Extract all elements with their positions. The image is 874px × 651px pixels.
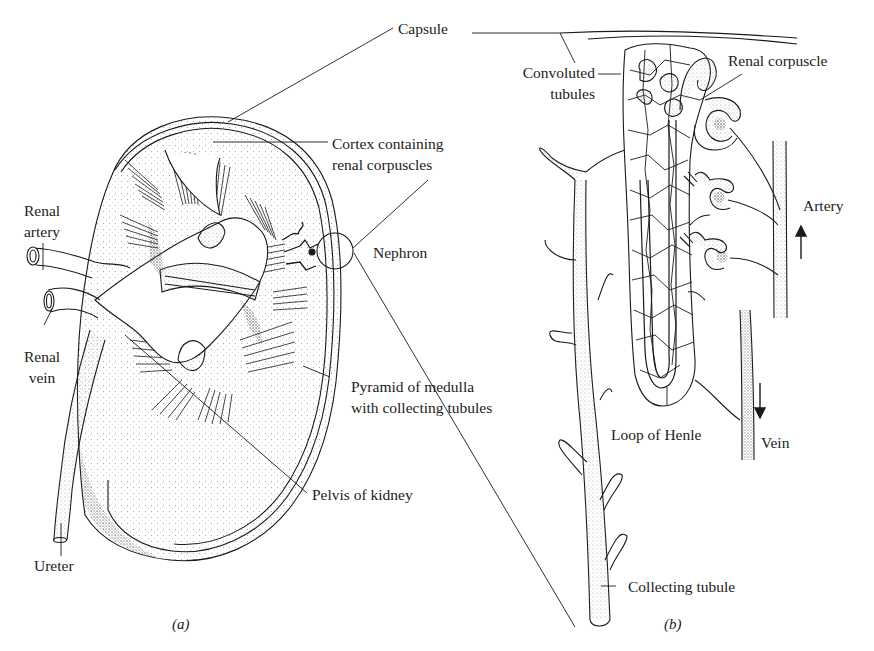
label-ureter: Ureter xyxy=(34,555,74,576)
label-pelvis-of-kidney: Pelvis of kidney xyxy=(312,484,413,505)
panel-label-a: (a) xyxy=(172,616,190,633)
label-renal-artery-line1: Renal xyxy=(14,200,70,221)
kidney-cross-section xyxy=(27,117,341,561)
label-nephron: Nephron xyxy=(373,242,427,263)
label-convoluted-line2: tubules xyxy=(494,83,595,104)
label-renal-artery-line2: artery xyxy=(14,221,70,242)
label-loop-of-henle: Loop of Henle xyxy=(611,424,701,445)
label-renal-corpuscle: Renal corpuscle xyxy=(728,50,827,71)
label-collecting-tubule: Collecting tubule xyxy=(628,576,735,597)
nephron-detail xyxy=(540,31,797,626)
diagram-drawing xyxy=(0,0,874,651)
label-renal-vein-line1: Renal xyxy=(14,346,70,367)
label-renal-vein-line2: vein xyxy=(14,367,70,388)
arrow-up-icon xyxy=(796,226,806,236)
label-vein: Vein xyxy=(761,432,789,453)
kidney-nephron-figure: Capsule Cortex containing renal corpuscl… xyxy=(0,0,874,651)
label-convoluted-line1: Convoluted xyxy=(494,62,595,83)
label-pyramid-line1: Pyramid of medulla xyxy=(351,376,474,397)
label-cortex-line2: renal corpuscles xyxy=(332,154,432,175)
label-capsule: Capsule xyxy=(398,18,448,39)
arrow-down-icon xyxy=(755,408,765,418)
label-artery: Artery xyxy=(803,195,843,216)
label-cortex-line1: Cortex containing xyxy=(332,133,444,154)
panel-label-b: (b) xyxy=(664,616,682,633)
label-pyramid-line2: with collecting tubules xyxy=(351,397,492,418)
